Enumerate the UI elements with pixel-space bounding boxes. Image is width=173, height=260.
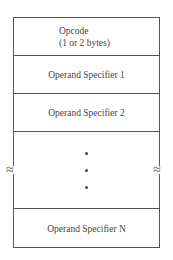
ellipsis-dot-icon <box>85 152 88 155</box>
ellipsis-dot-icon <box>85 186 88 189</box>
operand-specifier-n-label: Operand Specifier N <box>47 223 126 235</box>
operand-specifier-1-field: Operand Specifier 1 <box>14 55 159 94</box>
ellipsis-dot-icon <box>85 169 88 172</box>
opcode-size-label: (1 or 2 bytes) <box>59 37 110 49</box>
opcode-label: Opcode <box>59 25 89 37</box>
operand-specifier-2-field: Operand Specifier 2 <box>14 93 159 132</box>
instruction-format-box: Opcode (1 or 2 bytes) Operand Specifier … <box>13 17 160 248</box>
left-break-icon: ≈ <box>6 166 14 174</box>
operand-specifier-n-field: Operand Specifier N <box>14 208 159 249</box>
operand-specifier-2-label: Operand Specifier 2 <box>48 107 125 119</box>
opcode-field: Opcode (1 or 2 bytes) <box>14 18 159 55</box>
operand-specifier-1-label: Operand Specifier 1 <box>48 69 125 81</box>
ellipsis-field <box>14 131 159 209</box>
right-break-icon: ≈ <box>153 166 161 174</box>
